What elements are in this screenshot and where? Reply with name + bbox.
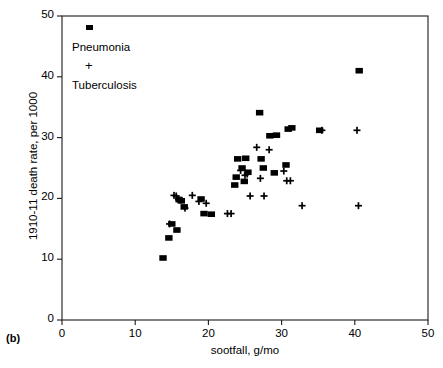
data-point-tuberculosis	[253, 144, 260, 151]
series-pneumonia	[159, 68, 363, 261]
x-axis-tick-label: 40	[342, 327, 368, 339]
data-point-pneumonia	[271, 170, 278, 176]
data-point-pneumonia	[165, 235, 172, 241]
data-point-tuberculosis	[261, 192, 268, 199]
data-point-pneumonia	[242, 155, 249, 161]
data-point-pneumonia	[234, 156, 241, 162]
data-point-pneumonia	[257, 156, 264, 162]
data-point-tuberculosis	[247, 192, 254, 199]
figure-panel-b: 1910-11 death rate, per 1000 sootfall, g…	[0, 0, 443, 368]
data-point-pneumonia	[273, 132, 280, 138]
data-point-tuberculosis	[257, 175, 264, 182]
data-point-pneumonia	[200, 211, 207, 217]
data-point-pneumonia	[260, 165, 267, 171]
data-point-pneumonia	[159, 255, 166, 261]
data-point-pneumonia	[208, 211, 215, 217]
y-axis-tick-label: 20	[28, 190, 54, 202]
y-axis-tick-label: 50	[28, 8, 54, 20]
data-point-pneumonia	[288, 125, 295, 131]
data-point-tuberculosis	[228, 210, 235, 217]
square-marker-icon	[86, 25, 93, 30]
data-point-tuberculosis	[266, 146, 273, 153]
data-point-tuberculosis	[280, 168, 287, 175]
x-axis-tick-label: 0	[49, 327, 75, 339]
data-point-tuberculosis	[353, 127, 360, 134]
data-point-pneumonia	[173, 227, 180, 233]
data-point-tuberculosis	[189, 192, 196, 199]
data-point-pneumonia	[266, 133, 273, 139]
x-axis-tick-label: 20	[195, 327, 221, 339]
data-point-pneumonia	[282, 162, 289, 168]
data-point-tuberculosis	[299, 202, 306, 209]
legend-label-tuberculosis: Tuberculosis	[72, 79, 137, 91]
data-point-pneumonia	[233, 174, 240, 180]
y-axis-tick-label: 30	[28, 130, 54, 142]
data-point-pneumonia	[241, 179, 248, 185]
y-axis-title: 1910-11 death rate, per 1000	[27, 56, 39, 276]
data-point-tuberculosis	[355, 202, 362, 209]
x-axis-tick-label: 50	[415, 327, 441, 339]
plus-marker-icon: +	[85, 59, 93, 72]
x-axis-tick-label: 30	[269, 327, 295, 339]
x-axis-title: sootfall, g/mo	[62, 344, 428, 356]
data-point-pneumonia	[256, 110, 263, 116]
data-point-tuberculosis	[287, 177, 294, 184]
x-axis-tick-label: 10	[122, 327, 148, 339]
scatter-plot	[0, 0, 443, 368]
series-tuberculosis	[166, 127, 362, 228]
data-point-pneumonia	[231, 182, 238, 188]
panel-label: (b)	[6, 332, 20, 344]
y-axis-tick-label: 0	[28, 312, 54, 324]
legend-label-pneumonia: Pneumonia	[72, 41, 130, 53]
y-axis-tick-label: 10	[28, 251, 54, 263]
y-axis-tick-label: 40	[28, 69, 54, 81]
data-point-pneumonia	[355, 68, 362, 74]
